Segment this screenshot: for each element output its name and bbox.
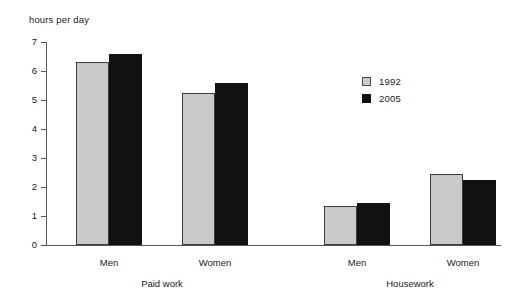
legend-item-2005: 2005: [362, 90, 401, 107]
category-label-housework-women: Women: [447, 257, 480, 268]
legend-label-1992: 1992: [379, 76, 401, 87]
bar-housework-women-1992: [430, 174, 463, 245]
y-tick-mark: [41, 100, 46, 101]
legend-swatch-icon-1992: [362, 77, 371, 86]
y-tick-mark: [41, 187, 46, 188]
plot-area: 76543210: [46, 42, 501, 245]
y-tick-label: 7: [32, 36, 37, 47]
y-tick-label: 3: [32, 152, 37, 163]
bar-paid-work-men-2005: [109, 54, 142, 245]
category-label-paid-work-men: Men: [100, 257, 118, 268]
legend-label-2005: 2005: [379, 93, 401, 104]
y-tick-label: 5: [32, 94, 37, 105]
y-tick-mark: [41, 71, 46, 72]
group-label-housework: Housework: [386, 278, 434, 289]
category-label-paid-work-women: Women: [199, 257, 232, 268]
legend-item-1992: 1992: [362, 73, 401, 90]
group-label-paid-work: Paid work: [141, 278, 183, 289]
bar-paid-work-women-1992: [182, 93, 215, 245]
y-tick-label: 4: [32, 123, 37, 134]
chart-legend: 1992 2005: [362, 73, 401, 107]
x-axis-line: [46, 245, 501, 246]
category-label-housework-men: Men: [348, 257, 366, 268]
bar-paid-work-men-1992: [76, 62, 109, 245]
y-tick-mark: [41, 216, 46, 217]
bar-paid-work-women-2005: [215, 83, 248, 245]
y-axis-title: hours per day: [29, 14, 89, 25]
y-tick-mark: [41, 158, 46, 159]
y-tick-label: 6: [32, 65, 37, 76]
bar-housework-women-2005: [463, 180, 496, 245]
bar-chart: hours per day 76543210 MenWomenMenWomen …: [0, 0, 524, 305]
y-axis-line: [46, 42, 47, 245]
y-tick-mark: [41, 129, 46, 130]
y-tick-label: 0: [32, 239, 37, 250]
bar-housework-men-1992: [324, 206, 357, 245]
legend-swatch-icon-2005: [362, 94, 371, 103]
bar-housework-men-2005: [357, 203, 390, 245]
y-tick-label: 2: [32, 181, 37, 192]
y-tick-label: 1: [32, 210, 37, 221]
y-tick-mark: [41, 42, 46, 43]
y-tick-mark: [41, 245, 46, 246]
